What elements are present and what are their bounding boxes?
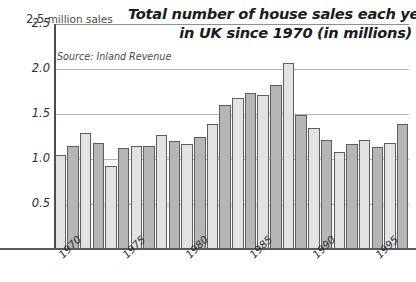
bar-1986	[257, 95, 268, 249]
bar-1995	[372, 147, 383, 249]
x-axis-tick-labels: 197019751980198519901995	[0, 250, 416, 282]
bar-1988	[283, 63, 294, 249]
bar-1989	[295, 115, 306, 249]
chart-figure: Total number of house sales each year in…	[0, 0, 416, 282]
bar-1997	[397, 124, 408, 249]
y-tick-label-1.0: 1.0	[32, 151, 50, 165]
plot-area	[54, 24, 409, 249]
bar-1980	[181, 144, 192, 249]
bar-1990	[308, 128, 319, 250]
bar-1979	[169, 141, 180, 249]
bar-1993	[346, 144, 357, 249]
bar-1974	[105, 166, 116, 249]
bar-1994	[359, 140, 370, 249]
bar-1983	[219, 105, 230, 249]
y-tick-label-2.0: 2.0	[32, 61, 50, 75]
bar-1982	[207, 124, 218, 249]
bar-1991	[321, 140, 332, 249]
y-tick-label-2.5: 2.5	[32, 16, 50, 30]
bar-1972	[80, 133, 91, 249]
y-tick-label-1.5: 1.5	[32, 106, 50, 120]
y-axis-tick-labels: 2.52.01.51.00.5	[0, 24, 50, 249]
bar-1970	[55, 155, 66, 250]
y-axis-line	[54, 24, 56, 250]
bar-1992	[334, 152, 345, 249]
chart-title-line-1: Total number of house sales each year	[128, 4, 412, 23]
bar-1977	[143, 146, 154, 250]
bar-1975	[118, 148, 129, 249]
bar-1984	[232, 98, 243, 249]
bar-series	[54, 24, 409, 249]
bar-1981	[194, 137, 205, 250]
bar-1978	[156, 135, 167, 249]
y-tick-label-0.5: 0.5	[32, 196, 50, 210]
bar-1973	[93, 143, 104, 249]
bar-1987	[270, 85, 281, 249]
bar-1985	[245, 93, 256, 249]
